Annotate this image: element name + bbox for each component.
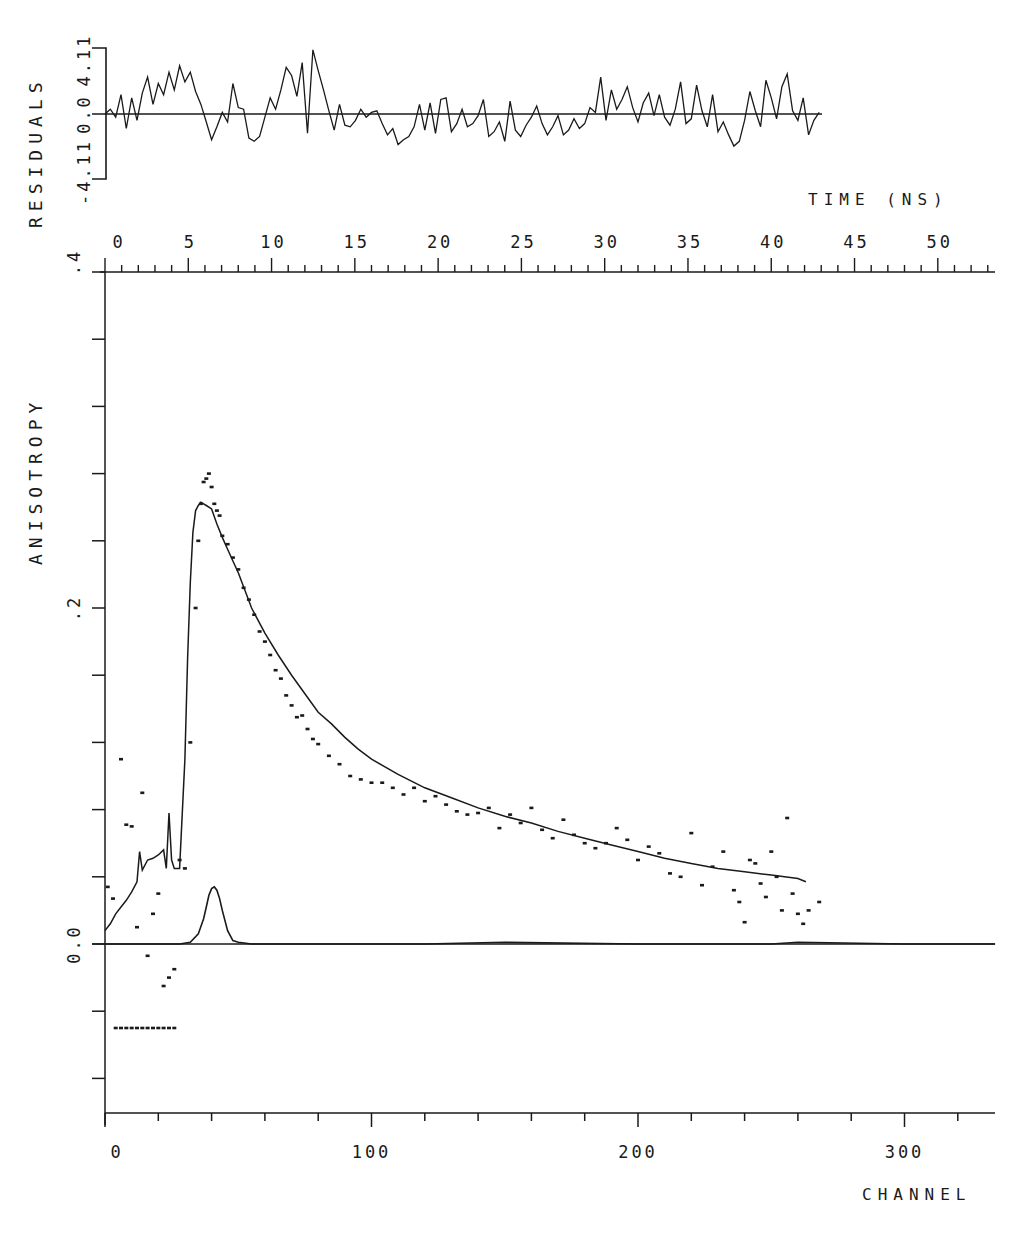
data-point — [130, 1027, 134, 1030]
data-point — [327, 755, 331, 758]
data-point — [146, 1027, 150, 1030]
data-point — [263, 640, 267, 643]
data-point — [359, 778, 363, 781]
instrument-response-curve — [105, 887, 995, 944]
data-point — [202, 481, 206, 484]
time-tick-label: 10 — [260, 232, 286, 252]
data-point — [476, 812, 480, 815]
data-point — [279, 677, 283, 680]
data-point — [807, 909, 811, 912]
data-point — [162, 985, 166, 988]
data-point — [178, 859, 182, 862]
time-tick-label: 20 — [427, 232, 453, 252]
time-tick-label: 30 — [593, 232, 619, 252]
data-point — [204, 477, 208, 480]
time-tick-label: 15 — [344, 232, 370, 252]
data-point — [604, 842, 608, 845]
data-point — [593, 847, 597, 850]
data-point — [119, 1027, 123, 1030]
data-point — [311, 738, 315, 741]
data-point — [423, 800, 427, 803]
data-point — [689, 832, 693, 835]
y-mid-tick-label: .2 — [64, 595, 84, 621]
data-point — [130, 825, 134, 828]
residual-top-tick-label: 4.11 — [74, 34, 94, 87]
data-point — [391, 787, 395, 790]
data-point — [657, 852, 661, 855]
data-point — [380, 781, 384, 784]
x-tick-label: 200 — [618, 1142, 658, 1162]
data-point — [348, 775, 352, 778]
time-tick-label: 50 — [927, 232, 953, 252]
data-point — [156, 1027, 160, 1030]
data-point — [412, 787, 416, 790]
data-point — [151, 913, 155, 916]
channel-axis-label: CHANNEL — [862, 1185, 971, 1204]
data-point — [172, 1027, 176, 1030]
data-point — [551, 837, 555, 840]
data-point — [316, 743, 320, 746]
data-point — [583, 842, 587, 845]
data-point — [162, 1027, 166, 1030]
time-tick-label: 40 — [760, 232, 786, 252]
residual-zero-tick-label: 0.0 — [74, 94, 94, 134]
data-point — [700, 884, 704, 887]
data-point — [764, 896, 768, 899]
data-point — [572, 834, 576, 837]
data-point — [183, 867, 187, 870]
data-point — [402, 793, 406, 796]
data-point — [711, 865, 715, 868]
data-point — [124, 823, 128, 826]
anisotropy-axis-label: ANISOTROPY — [25, 397, 46, 565]
data-point — [647, 845, 651, 848]
data-point — [135, 1027, 139, 1030]
data-point — [284, 694, 288, 697]
data-point — [290, 704, 294, 707]
residuals-panel: RESIDUALS 4.11 0.0 -4.11 — [25, 34, 822, 228]
data-point — [268, 654, 272, 657]
data-point — [140, 792, 144, 795]
data-point — [785, 817, 789, 820]
data-point — [519, 822, 523, 825]
data-point — [196, 540, 200, 543]
data-point — [434, 795, 438, 798]
data-point — [444, 803, 448, 806]
data-point — [247, 598, 251, 601]
data-point — [679, 876, 683, 879]
data-point — [487, 807, 491, 810]
time-tick-label: 25 — [510, 232, 536, 252]
data-point — [231, 556, 235, 559]
data-point — [753, 862, 757, 865]
data-point — [119, 758, 123, 761]
data-point — [791, 892, 795, 895]
data-point — [111, 897, 115, 900]
data-point — [146, 955, 150, 958]
residual-trace — [105, 50, 819, 146]
data-point — [106, 886, 110, 889]
time-tick-label: 5 — [184, 232, 197, 252]
data-point — [114, 1027, 118, 1030]
data-point — [306, 728, 310, 731]
data-point — [780, 909, 784, 912]
data-point — [220, 535, 224, 538]
data-point — [759, 882, 763, 885]
time-axis: TIME (NS) 05101520253035404550 .4 — [64, 190, 995, 275]
time-axis-label: TIME (NS) — [808, 190, 949, 209]
data-point — [529, 807, 533, 810]
data-point — [769, 850, 773, 853]
y-axis-ticks — [92, 272, 105, 1078]
data-point — [636, 859, 640, 862]
data-point — [210, 486, 214, 489]
data-point — [668, 872, 672, 875]
data-point — [615, 827, 619, 830]
channel-axis-ticks: 0100200300 — [105, 1113, 958, 1162]
data-point — [721, 850, 725, 853]
data-point — [497, 827, 501, 830]
data-points — [106, 472, 822, 1029]
data-point — [508, 813, 512, 816]
data-point — [748, 859, 752, 862]
data-point — [338, 763, 342, 766]
data-point — [817, 901, 821, 904]
data-point — [167, 976, 171, 979]
data-point — [172, 968, 176, 971]
